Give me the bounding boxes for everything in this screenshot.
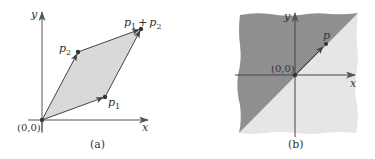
caption-a: (a) bbox=[90, 138, 105, 151]
point-p2 bbox=[76, 50, 80, 54]
figure: y x (0,0) p1 p2 p1+p2 (a) y x (0,0) p bbox=[0, 0, 375, 159]
panel-a: y x (0,0) p1 p2 p1+p2 (a) bbox=[17, 8, 162, 151]
y-axis-label-b: y bbox=[283, 10, 291, 23]
label-p1: p1 bbox=[108, 96, 120, 111]
x-axis-label-b: x bbox=[350, 77, 357, 90]
point-p bbox=[324, 42, 328, 46]
origin-label-a: (0,0) bbox=[17, 122, 41, 133]
label-p: p bbox=[323, 29, 330, 42]
origin-label-b: (0,0) bbox=[271, 63, 295, 74]
point-p1 bbox=[103, 95, 107, 99]
parallelogram bbox=[42, 29, 141, 120]
label-p2: p2 bbox=[59, 42, 71, 57]
y-axis-label-a: y bbox=[30, 8, 38, 21]
panel-b: y x (0,0) p (b) bbox=[235, 10, 358, 151]
caption-b: (b) bbox=[288, 138, 304, 151]
x-axis-label-a: x bbox=[142, 121, 149, 134]
label-sum: p1+p2 bbox=[124, 16, 162, 31]
